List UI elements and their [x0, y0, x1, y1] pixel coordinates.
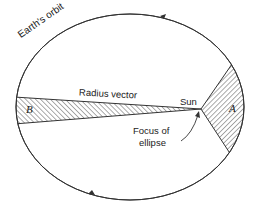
focus-pointer-arrow-icon — [181, 111, 200, 141]
orbit-diagram — [0, 0, 256, 209]
sector-b — [14, 97, 201, 124]
sector-a-label: A — [229, 103, 236, 114]
sun-label: Sun — [180, 97, 197, 107]
focus-label-line2: ellipse — [139, 138, 166, 148]
sector-b-label: B — [26, 104, 33, 115]
focus-label-line1: Focus of — [133, 126, 169, 136]
